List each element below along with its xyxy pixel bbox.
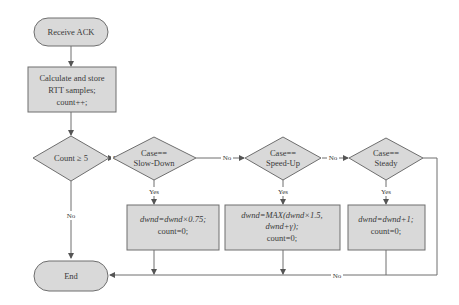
node-speed-up-line-1: Case== [270, 148, 296, 158]
node-speed-up: Case== Speed-Up [245, 137, 321, 180]
node-action-slow-line-1: dwnd=dwnd×0.75; [140, 214, 206, 224]
node-slow-down: Case== Slow-Down [113, 137, 196, 180]
node-action-speed-up: dwnd=MAX(dwnd×1.5, dwnd+γ); count=0; [225, 205, 340, 250]
label-count-no: No [67, 212, 76, 220]
node-end: End [34, 261, 108, 291]
node-action-steady-line-1: dwnd=dwnd+1; [358, 214, 414, 224]
node-action-steady: dwnd=dwnd+1; count=0; [348, 205, 425, 250]
label-steady-no: No [333, 272, 342, 280]
node-action-slow-down: dwnd=dwnd×0.75; count=0; [127, 205, 219, 250]
node-action-speed-line-2: dwnd+γ); [265, 221, 298, 231]
node-action-slow-line-2: count=0; [158, 226, 188, 236]
label-slow-no: No [223, 154, 232, 162]
node-steady-line-1: Case== [373, 148, 399, 158]
node-calculate: Calculate and store RTT samples; count++… [28, 67, 116, 112]
node-count-check-label: Count ≥ 5 [54, 153, 88, 163]
node-action-speed-line-1: dwnd=MAX(dwnd×1.5, [241, 210, 322, 220]
node-receive-ack-label: Receive ACK [48, 27, 96, 37]
node-calculate-line-3: count++; [57, 97, 88, 107]
node-calculate-line-1: Calculate and store [39, 73, 104, 83]
label-steady-yes: Yes [381, 188, 391, 196]
node-steady-line-2: Steady [374, 158, 398, 168]
node-calculate-line-2: RTT samples; [48, 85, 95, 95]
node-steady: Case== Steady [349, 138, 423, 180]
node-receive-ack: Receive ACK [34, 18, 108, 46]
label-slow-yes: Yes [149, 188, 159, 196]
node-slow-down-line-2: Slow-Down [133, 158, 175, 168]
label-speed-no: No [329, 154, 338, 162]
node-count-check: Count ≥ 5 [33, 136, 109, 181]
node-action-steady-line-2: count=0; [371, 226, 401, 236]
node-end-label: End [64, 271, 78, 281]
node-speed-up-line-2: Speed-Up [266, 158, 300, 168]
flowchart-canvas: Yes No No No Yes Yes Yes No Receive ACK … [0, 0, 459, 305]
node-slow-down-line-1: Case== [141, 148, 167, 158]
node-action-speed-line-3: count=0; [267, 233, 297, 243]
label-speed-yes: Yes [278, 188, 288, 196]
